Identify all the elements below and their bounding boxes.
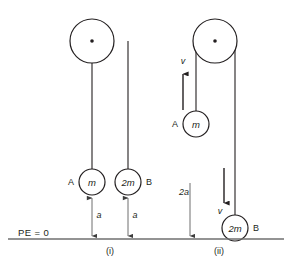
panel-ii-mass-b-tag: B — [253, 223, 259, 233]
panel-i-mass-b-tag: B — [146, 177, 152, 187]
panel-ii-velocity-down-label: v — [218, 206, 223, 216]
pulley-atwood-diagram: m A 2m B a a (i) v — [0, 0, 292, 271]
panel-i-height-a-left-label: a — [96, 210, 101, 220]
panel-i-group: m A 2m B a a (i) — [68, 19, 152, 256]
panel-i-height-a-right-label: a — [132, 210, 137, 220]
panel-i-pulley-axle-icon — [90, 39, 94, 43]
physics-figure-canvas: m A 2m B a a (i) v — [0, 0, 292, 271]
panel-ii-mass-a-tag: A — [172, 119, 178, 129]
panel-i-mass-a-label: m — [88, 177, 96, 188]
panel-ii-mass-b-label: 2m — [227, 223, 241, 234]
panel-i-mass-b-label: 2m — [120, 177, 134, 188]
panel-i-caption: (i) — [106, 246, 114, 256]
panel-i-mass-a-tag: A — [68, 177, 74, 187]
panel-ii-mass-a-label: m — [192, 119, 200, 130]
panel-ii-caption: (ii) — [214, 246, 224, 256]
pe-zero-label: PE = 0 — [18, 227, 49, 238]
panel-ii-drop-2a-label: 2a — [178, 187, 189, 197]
panel-ii-velocity-up-label: v — [181, 56, 186, 66]
panel-ii-pulley-axle-icon — [213, 39, 217, 43]
panel-ii-group: v m A 2a v 2m B (ii) — [172, 19, 259, 256]
